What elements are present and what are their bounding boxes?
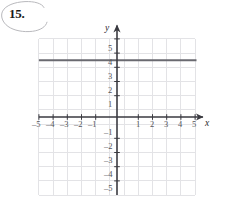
problem-number: 15. [9,6,25,22]
graph-axes [0,0,225,202]
coordinate-plane: y x –5 –4 –3 –2 –1 1 2 3 4 5 5 4 3 2 1 –… [0,0,225,202]
worksheet-graph-figure: 15. [0,0,225,202]
